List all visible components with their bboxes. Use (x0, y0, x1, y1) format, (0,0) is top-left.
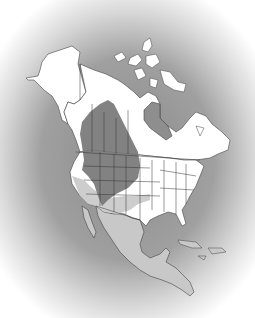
north-america-map (0, 0, 255, 318)
baja-california (82, 206, 96, 238)
caribbean-islands (178, 240, 226, 260)
range-map (0, 0, 255, 318)
